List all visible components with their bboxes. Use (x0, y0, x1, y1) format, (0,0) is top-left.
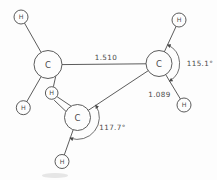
hydrogen-label-bottom-left: H (21, 104, 26, 111)
ch-bond-length-label: 1.089 (148, 90, 171, 99)
bond-c3-h-bottom (64, 130, 73, 155)
bond-c2-h-top-right (164, 26, 176, 51)
carbon-label-left: C (45, 60, 51, 70)
scan-smudge (42, 173, 68, 178)
hcc-angle-label: 117.7° (99, 123, 126, 132)
hydrogen-label-bottom-right: H (182, 101, 187, 108)
hch-angle-label: 115.1° (187, 59, 214, 68)
hydrogen-label-top-left: H (19, 13, 24, 20)
carbon-label-bottom: C (74, 113, 80, 123)
bond-c1-c2 (62, 64, 146, 65)
hydrogen-label-top-right: H (177, 16, 182, 23)
hydrogen-label-front: H (49, 89, 54, 96)
cc-bond-length-label: 1.510 (95, 53, 118, 62)
molecular-structure-diagram: C C C H H H H H H 1.510 115.1° 1.089 117… (0, 0, 217, 180)
hydrogen-label-bottom: H (60, 158, 65, 165)
carbon-label-right: C (156, 59, 162, 69)
bond-c1-h-bottom-left (27, 77, 41, 102)
bond-c3-c2 (88, 71, 148, 111)
bond-c1-h-top-left (25, 23, 42, 52)
